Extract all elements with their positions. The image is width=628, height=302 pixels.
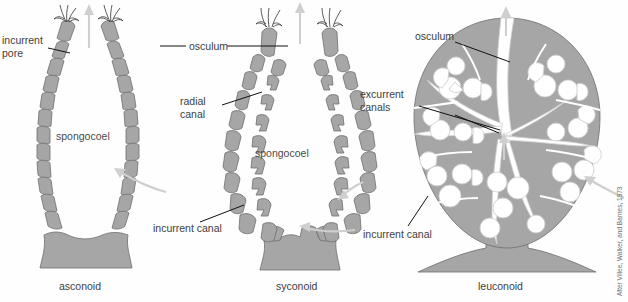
asconoid-caption: asconoid (59, 280, 101, 292)
asconoid-base (40, 232, 132, 268)
sponge-body-types-figure: incurrent pore spongocoel asconoid (0, 0, 628, 302)
asconoid-osculum-right-cell (101, 21, 119, 41)
figure-credit: After Villee, Walker, and Barnes, 1973 (616, 186, 623, 296)
excurrent-canals-label-line1: excurrent (360, 88, 404, 100)
excurrent-canals-label-line2: canals (360, 101, 390, 113)
incurrent-canal-syconoid-label: incurrent canal (153, 222, 222, 234)
diagram-canvas: incurrent pore spongocoel asconoid (0, 0, 628, 302)
incurrent-pore-label-line2: pore (2, 47, 23, 59)
radial-canal-label-line2: canal (180, 108, 205, 120)
syconoid-flagella-right (317, 8, 343, 27)
syconoid-caption: syconoid (276, 280, 318, 292)
asconoid-osculum-left-cell (57, 21, 75, 41)
panel-leuconoid: osculum excurrent canals incurrent canal… (360, 6, 624, 292)
syconoid-flagella-left (256, 8, 282, 27)
radial-canal-label-line1: radial (180, 95, 206, 107)
asconoid-outflow-arrow (84, 4, 94, 48)
incurrent-pore-label-line1: incurrent (2, 34, 43, 46)
asconoid-spongocoel-label: spongocoel (56, 130, 110, 142)
osculum-leuconoid-label: osculum (415, 30, 454, 42)
syconoid-osculum-right-cell (322, 28, 338, 56)
asconoid-flagella-right (98, 5, 123, 22)
syconoid-outflow-arrow (295, 2, 305, 44)
syconoid-osculum-left-cell (261, 28, 277, 56)
asconoid-flagella-left (54, 5, 79, 22)
panel-asconoid: incurrent pore spongocoel asconoid (2, 4, 166, 292)
syconoid-right-chambers (314, 55, 377, 242)
incurrent-canal-leuconoid-label: incurrent canal (363, 228, 432, 240)
panel-syconoid: osculum radial canal spongocoel incurren… (153, 2, 377, 292)
incurrent-canal-leuconoid-leader (408, 196, 428, 226)
leuconoid-caption: leuconoid (478, 280, 523, 292)
syconoid-spongocoel-label: spongocoel (255, 147, 309, 159)
asconoid-right-wall (107, 41, 139, 229)
osculum-syconoid-label: osculum (189, 40, 228, 52)
